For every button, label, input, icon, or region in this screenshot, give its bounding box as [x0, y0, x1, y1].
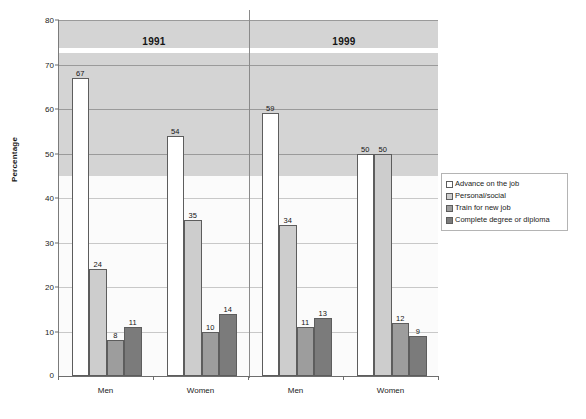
bar-value-label: 50 [379, 145, 387, 154]
bar: 8 [107, 340, 125, 376]
bar: 35 [184, 220, 202, 376]
bar-value-label: 13 [319, 309, 327, 318]
bar: 11 [124, 327, 142, 376]
x-axis-tick [248, 376, 249, 380]
bar: 10 [202, 332, 220, 377]
legend-swatch-icon [446, 193, 453, 200]
x-axis-group-label: Women [187, 386, 214, 395]
y-tick-mark-80 [55, 20, 59, 21]
chart-figure: Percentage 10203040506070801991199967248… [0, 0, 586, 419]
legend-item[interactable]: Complete degree or diploma [446, 214, 563, 226]
bar-value-label: 59 [266, 104, 274, 113]
legend-label: Train for new job [455, 204, 511, 212]
bar: 54 [167, 136, 185, 376]
y-tick-label-30: 30 [45, 238, 54, 247]
bar-value-label: 14 [224, 305, 232, 314]
y-tick-label-20: 20 [45, 283, 54, 292]
y-axis-title: Percentage [10, 115, 19, 205]
y-tick-label-zero: 0 [46, 371, 54, 380]
bar-value-label: 12 [396, 314, 404, 323]
legend-item[interactable]: Advance on the job [446, 178, 563, 190]
bar: 13 [314, 318, 332, 376]
bar: 34 [279, 225, 297, 376]
x-axis-tick [58, 376, 59, 380]
legend-label: Advance on the job [455, 180, 519, 188]
legend: Advance on the jobPersonal/socialTrain f… [441, 173, 568, 231]
bar-value-label: 8 [113, 331, 117, 340]
bar-value-label: 9 [416, 327, 420, 336]
x-axis-group-label: Men [98, 386, 114, 395]
y-tick-mark-10 [55, 331, 59, 332]
bar-value-label: 50 [361, 145, 369, 154]
y-tick-label-60: 60 [45, 105, 54, 114]
bar-value-label: 24 [94, 260, 102, 269]
y-tick-label-10: 10 [45, 327, 54, 336]
x-axis-tick [343, 376, 344, 380]
y-tick-mark-40 [55, 198, 59, 199]
bar-value-label: 35 [189, 211, 197, 220]
bar-value-label: 67 [76, 69, 84, 78]
y-tick-mark-70 [55, 64, 59, 65]
x-axis-tick [438, 376, 439, 380]
legend-item[interactable]: Train for new job [446, 202, 563, 214]
y-tick-label-50: 50 [45, 149, 54, 158]
x-axis-tick [153, 376, 154, 380]
bar: 67 [72, 78, 90, 376]
bar: 11 [297, 327, 315, 376]
y-tick-mark-50 [55, 153, 59, 154]
bar-value-label: 34 [284, 216, 292, 225]
legend-swatch-icon [446, 205, 453, 212]
x-axis-group-label: Women [377, 386, 404, 395]
bar-value-label: 54 [171, 127, 179, 136]
bar: 59 [262, 113, 280, 376]
bar: 24 [89, 269, 107, 376]
y-tick-mark-20 [55, 287, 59, 288]
panel-divider [249, 10, 250, 378]
legend-item[interactable]: Personal/social [446, 190, 563, 202]
bar: 14 [219, 314, 237, 376]
bar-value-label: 11 [129, 318, 137, 327]
y-tick-label-70: 70 [45, 60, 54, 69]
y-tick-mark-60 [55, 109, 59, 110]
bar-value-label: 11 [301, 318, 309, 327]
era-header-1991: 1991 [114, 36, 194, 47]
legend-swatch-icon [446, 217, 453, 224]
x-axis-group-label: Men [288, 386, 304, 395]
bar-value-label: 10 [206, 323, 214, 332]
bar: 12 [392, 323, 410, 376]
era-header-1999: 1999 [304, 36, 384, 47]
y-tick-label-40: 40 [45, 194, 54, 203]
y-tick-mark-30 [55, 242, 59, 243]
bar: 50 [357, 154, 375, 377]
legend-swatch-icon [446, 181, 453, 188]
y-tick-label-80: 80 [45, 16, 54, 25]
bar: 50 [374, 154, 392, 377]
legend-label: Personal/social [455, 192, 506, 200]
bar: 9 [409, 336, 427, 376]
legend-label: Complete degree or diploma [455, 216, 550, 224]
plot-area: 1020304050607080199119996724811543510145… [58, 20, 438, 376]
